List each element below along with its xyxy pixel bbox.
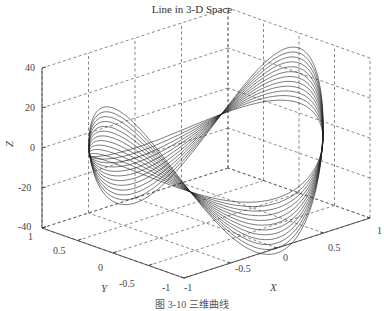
z-tick-0: 0 [30, 143, 35, 153]
y-axis-label: Y [101, 282, 107, 294]
curve-series [89, 57, 323, 245]
z-tick-minus20: -20 [18, 183, 31, 193]
z-axis-label: Z [3, 141, 15, 147]
y-tick-0-5: 0.5 [53, 246, 66, 256]
z-tick-20: 20 [25, 103, 35, 113]
chart-title: Line in 3-D Space [0, 3, 384, 15]
y-tick-minus1: -1 [162, 283, 170, 293]
grid-lines [42, 8, 370, 278]
y-tick-minus0-5: -0.5 [119, 279, 135, 289]
data-curves [89, 47, 323, 254]
x-tick-minus1: -1 [184, 283, 192, 293]
x-tick-minus0-5: -0.5 [235, 264, 251, 274]
x-tick-0-5: 0.5 [328, 243, 341, 253]
curve-series [89, 47, 323, 254]
y-tick-0: 0 [98, 263, 103, 273]
z-tick-40: 40 [25, 63, 35, 73]
curve-series [89, 100, 323, 202]
y-tick-1: 1 [28, 232, 33, 242]
x-tick-1: 1 [377, 226, 382, 236]
x-axis-label: X [270, 281, 277, 293]
x-tick-0: 0 [283, 253, 288, 263]
figure-caption: 图 3-10 三维曲线 [0, 296, 384, 311]
